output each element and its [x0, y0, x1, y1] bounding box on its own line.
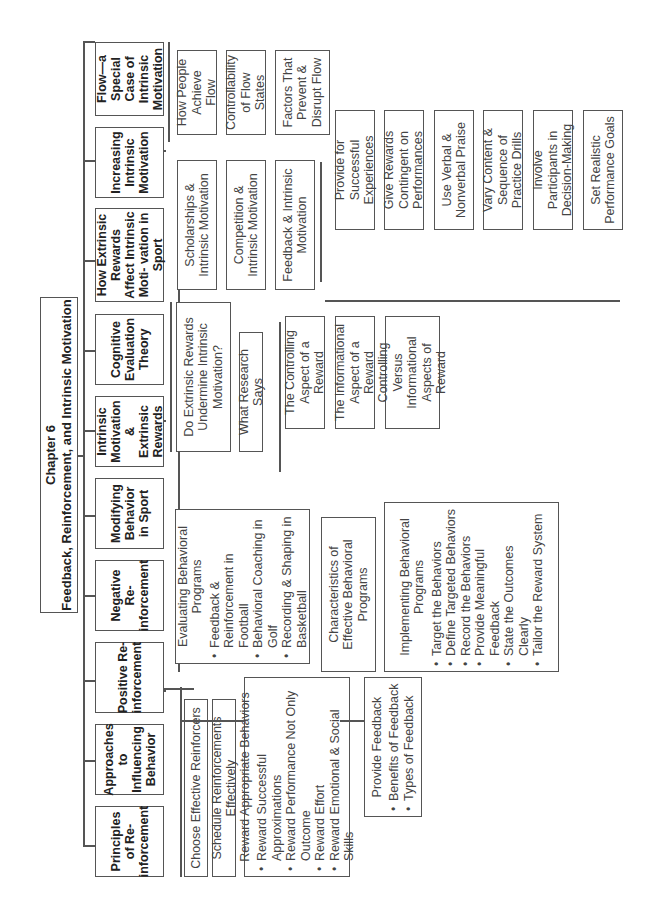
- topic-cognitive-evaluation[interactable]: Cognitive Evaluation Theory: [95, 314, 164, 385]
- list-item: Tailor the Reward System: [531, 508, 546, 666]
- spine-line: [83, 42, 85, 847]
- list-item: Feedback & Reinforcement in Football: [208, 515, 252, 658]
- topic-label: Principles of Re- inforcement: [109, 806, 151, 878]
- schedule-reinforcements-box[interactable]: Schedule Reinforcements Effectively: [212, 699, 236, 877]
- item-label: Scholarships & Intrinsic Motivation: [183, 166, 212, 284]
- list-item: State the Outcomes Clearly: [502, 508, 531, 666]
- topic-label: Modifying Behavior in Sport: [109, 481, 151, 546]
- item-label: How People Achieve Flow: [175, 56, 219, 129]
- connector: [83, 42, 95, 44]
- connector: [83, 516, 95, 518]
- box-heading: Evaluating Behavioral Programs: [176, 515, 205, 658]
- undermine-box[interactable]: Do Extrinsic Rewards Undermine Intrinsic…: [176, 302, 231, 452]
- feedback-intrinsic-box[interactable]: Feedback & Intrinsic Motivation: [275, 160, 315, 290]
- item-label: Give Rewards Contingent on Performances: [382, 116, 426, 224]
- increasing-item-5[interactable]: Set Realistic Performance Goals: [583, 110, 623, 230]
- topic-negative-reinforcement[interactable]: Negative Re- inforcement: [95, 560, 164, 631]
- box-heading: Implementing Behavioral Programs: [398, 508, 427, 666]
- list-item: Types of Feedback: [402, 684, 417, 811]
- implementing-programs-box[interactable]: Implementing Behavioral Programs Target …: [384, 502, 559, 672]
- list-item: Reward Emotional & Social Skills: [328, 683, 357, 871]
- topic-intrinsic-extrinsic[interactable]: Intrinsic Motivation & Extrinsic Rewards: [95, 396, 164, 467]
- connector: [168, 42, 170, 142]
- box-heading: Provide Feedback: [370, 697, 385, 798]
- item-label: Competition & Intrinsic Motivation: [232, 166, 261, 284]
- implementing-list: Target the Behaviors Define Targeted Beh…: [430, 508, 546, 666]
- list-item: Provide Meaningful Feedback: [473, 508, 502, 666]
- item-label: Use Verbal & Nonverbal Praise: [440, 116, 469, 224]
- characteristics-box[interactable]: Characteristics of Effective Behavioral …: [321, 517, 376, 672]
- reward-behaviors-box[interactable]: Reward Appropriate Behaviors Reward Succ…: [244, 677, 350, 877]
- flow-item-0[interactable]: How People Achieve Flow: [177, 50, 217, 135]
- list-item: Recording & Shaping in Basketball: [280, 515, 309, 658]
- connector: [279, 322, 281, 472]
- topic-label: Increasing Intrinsic Motivation: [109, 130, 151, 195]
- informational-aspect-box[interactable]: The Informational Aspect of a Reward: [335, 316, 375, 429]
- connector: [83, 431, 95, 433]
- increasing-item-4[interactable]: Involve Participants in Decision-Making: [533, 110, 573, 230]
- connector: [164, 421, 166, 423]
- topic-extrinsic-affect[interactable]: How Extrinsic Rewards Affect Intrinsic M…: [95, 208, 164, 302]
- connector: [83, 351, 95, 353]
- topic-label: Flow—a Special Case of Intrinsic Motivat…: [95, 45, 165, 113]
- chapter-title: Feedback, Reinforcement, and Intrinsic M…: [59, 299, 75, 610]
- scholarships-box[interactable]: Scholarships & Intrinsic Motivation: [177, 160, 217, 290]
- item-label: Factors That Prevent & Disrupt Flow: [281, 56, 325, 129]
- connector: [340, 721, 364, 723]
- connector: [83, 596, 95, 598]
- list-item: Reward Successful Approximations: [255, 683, 284, 871]
- item-label: The Informational Aspect of a Reward: [333, 322, 377, 423]
- chapter-title-box: Chapter 6 Feedback, Reinforcement, and I…: [40, 297, 78, 613]
- item-label: The Controlling Aspect of a Reward: [283, 322, 327, 423]
- increasing-item-1[interactable]: Give Rewards Contingent on Performances: [384, 110, 424, 230]
- connector: [170, 302, 172, 452]
- item-label: Set Realistic Performance Goals: [589, 116, 618, 224]
- feedback-list: Benefits of Feedback Types of Feedback: [387, 684, 416, 811]
- modifying-children-bar: [164, 691, 166, 693]
- provide-feedback-box[interactable]: Provide Feedback Benefits of Feedback Ty…: [364, 677, 422, 817]
- list-item: Target the Behaviors: [430, 508, 445, 666]
- list-item: Define Targeted Behaviors: [444, 508, 459, 666]
- connector: [83, 681, 95, 683]
- item-label: Characteristics of Effective Behavioral …: [327, 523, 371, 666]
- topic-label: Approaches to Influencing Behavior: [102, 723, 158, 795]
- topic-modifying-behavior[interactable]: Modifying Behavior in Sport: [95, 478, 164, 549]
- topic-principles[interactable]: Principles of Re- inforcement: [95, 806, 164, 877]
- list-item: Record the Behaviors: [459, 508, 474, 666]
- connector: [83, 846, 95, 848]
- topic-label: Cognitive Evaluation Theory: [109, 317, 151, 382]
- research-box[interactable]: What Research Says: [239, 332, 263, 452]
- item-label: Controllability of Flow States: [224, 55, 268, 130]
- connector: [83, 161, 95, 163]
- connector: [83, 261, 95, 263]
- item-label: Choose Effective Reinforcers: [189, 707, 204, 869]
- evaluating-programs-box[interactable]: Evaluating Behavioral Programs Feedback …: [175, 509, 310, 664]
- choose-reinforcers-box[interactable]: Choose Effective Reinforcers: [184, 699, 208, 877]
- topic-approaches[interactable]: Approaches to Influencing Behavior: [95, 724, 164, 795]
- connector: [320, 162, 322, 282]
- connector: [325, 301, 620, 303]
- concept-map: Chapter 6 Feedback, Reinforcement, and I…: [0, 0, 651, 922]
- increasing-item-2[interactable]: Use Verbal & Nonverbal Praise: [434, 110, 474, 230]
- item-label: Vary Content & Sequence of Practice Dril…: [481, 116, 525, 224]
- list-item: Behavioral Coaching in Golf: [251, 515, 280, 658]
- topic-label: Negative Re- inforcement: [109, 560, 151, 632]
- topic-label: How Extrinsic Rewards Affect Intrinsic M…: [95, 211, 165, 299]
- item-label: Do Extrinsic Rewards Undermine Intrinsic…: [182, 308, 226, 446]
- increasing-item-3[interactable]: Vary Content & Sequence of Practice Dril…: [483, 110, 523, 230]
- list-item: Reward Effort: [313, 683, 328, 871]
- controlling-aspect-box[interactable]: The Controlling Aspect of a Reward: [285, 316, 325, 429]
- connector: [180, 687, 182, 877]
- controlling-vs-informational-box[interactable]: Controlling Versus Informational Aspects…: [385, 316, 440, 429]
- topic-increasing-intrinsic[interactable]: Increasing Intrinsic Motivation: [95, 127, 164, 198]
- increasing-item-0[interactable]: Provide for Successful Experiences: [335, 110, 375, 230]
- chapter-number: Chapter 6: [43, 425, 59, 485]
- competition-box[interactable]: Competition & Intrinsic Motivation: [226, 160, 266, 290]
- topic-label: Positive Re- inforcement: [116, 642, 144, 714]
- topic-positive-reinforcement[interactable]: Positive Re- inforcement: [95, 642, 164, 713]
- flow-item-2[interactable]: Factors That Prevent & Disrupt Flow: [275, 50, 330, 135]
- list-item: Benefits of Feedback: [387, 684, 402, 811]
- topic-flow[interactable]: Flow—a Special Case of Intrinsic Motivat…: [95, 42, 164, 116]
- item-label: Feedback & Intrinsic Motivation: [281, 166, 310, 284]
- flow-item-1[interactable]: Controllability of Flow States: [226, 50, 266, 135]
